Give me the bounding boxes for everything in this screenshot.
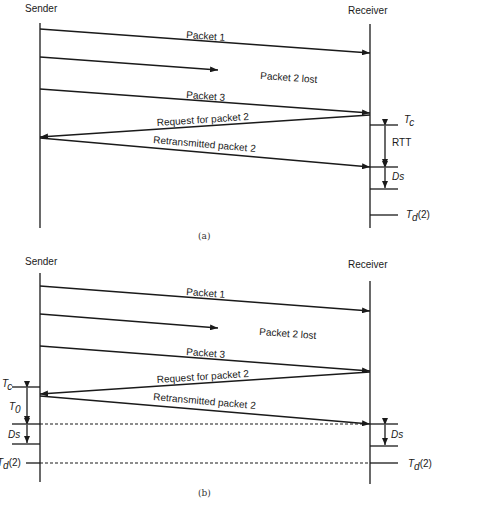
ds-right-label: Ds <box>391 429 403 440</box>
rtt-label: RTT <box>392 137 411 148</box>
receiver-label: Receiver <box>348 5 388 16</box>
tc-label: Tc <box>404 114 414 128</box>
panel-b: Sender Receiver Packet 1 Packet 2 lost P… <box>0 256 432 498</box>
request-label: Request for packet 2 <box>156 111 249 128</box>
panel-a: Sender Receiver Packet 1 Packet 2 lost P… <box>25 3 430 241</box>
tc-label: Tc <box>2 378 12 392</box>
caption-a: (a) <box>198 231 210 241</box>
request-label: Request for packet 2 <box>156 368 249 385</box>
sequence-diagram: Sender Receiver Packet 1 Packet 2 lost P… <box>0 0 489 508</box>
packet-2-arrow <box>40 57 218 70</box>
sender-label: Sender <box>25 3 58 14</box>
retransmit-label: Retransmitted packet 2 <box>153 134 257 154</box>
t0-label: T0 <box>9 401 21 415</box>
td-label: Td(2) <box>406 209 430 223</box>
packet-3-label: Packet 3 <box>186 89 226 103</box>
packet-1-label: Packet 1 <box>186 29 226 43</box>
ds-label: Ds <box>392 171 404 182</box>
caption-b: (b) <box>198 488 211 498</box>
td-left-label: Td(2) <box>0 457 21 471</box>
ds-left-label: Ds <box>8 429 20 440</box>
sender-label: Sender <box>25 256 58 267</box>
receiver-label: Receiver <box>348 259 388 270</box>
retransmit-label: Retransmitted packet 2 <box>153 391 257 411</box>
td-right-label: Td(2) <box>408 458 432 472</box>
packet-2-lost-label: Packet 2 lost <box>260 70 318 85</box>
packet-2-arrow <box>40 314 218 328</box>
packet-2-lost-label: Packet 2 lost <box>259 326 317 341</box>
